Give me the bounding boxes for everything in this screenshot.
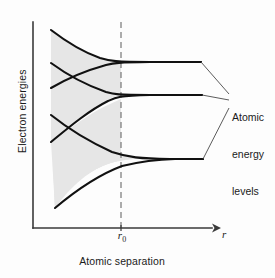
leader-line-level-3 <box>203 108 229 159</box>
annotation-line-3: levels <box>232 185 264 197</box>
annotation-line-2: energy <box>232 148 264 160</box>
energy-band-diagram: Electron energies Atomic separation r0 r… <box>0 0 275 278</box>
r0-tick-label: r0 <box>110 229 134 245</box>
r0-tick-subscript: 0 <box>122 235 126 244</box>
atomic-energy-levels-annotation: Atomic energy levels <box>232 86 264 222</box>
x-axis-arrowhead <box>212 224 221 233</box>
y-axis-label: Electron energies <box>16 61 28 161</box>
leader-line-level-1 <box>201 62 229 94</box>
annotation-leader-lines <box>201 62 229 159</box>
annotation-line-1: Atomic <box>232 111 264 123</box>
x-axis-label: Atomic separation <box>62 255 182 267</box>
x-axis-symbol: r <box>222 228 226 241</box>
leader-line-level-2 <box>202 95 229 100</box>
